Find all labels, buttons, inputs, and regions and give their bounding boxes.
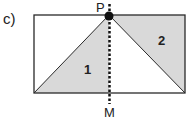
point-p	[105, 12, 114, 21]
diagram	[0, 0, 191, 124]
point-p-label: P	[96, 0, 105, 15]
region-2-label: 2	[158, 33, 165, 48]
region-1-label: 1	[84, 62, 91, 77]
point-m-label: M	[104, 105, 115, 120]
